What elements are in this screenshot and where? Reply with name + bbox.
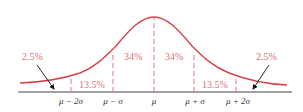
- label-left-inner: 34%: [124, 51, 142, 62]
- left-tail-arrow: [37, 65, 54, 89]
- axis-label-mu-plus-2sigma: μ + 2σ: [225, 96, 251, 106]
- label-right-tail: 2.5%: [256, 51, 277, 62]
- right-tail-arrow: [253, 65, 269, 89]
- label-left-tail: 2.5%: [22, 51, 43, 62]
- label-right-inner: 34%: [165, 51, 183, 62]
- normal-distribution-diagram: 2.5% 13.5% 34% 34% 13.5% 2.5% μ − 2σ μ −…: [0, 0, 303, 112]
- axis-label-mu-plus-sigma: μ + σ: [184, 96, 205, 106]
- axis-label-mu-minus-sigma: μ − σ: [102, 96, 123, 106]
- label-right-outer: 13.5%: [202, 79, 228, 90]
- label-left-outer: 13.5%: [79, 79, 105, 90]
- axis-label-mu-minus-2sigma: μ − 2σ: [58, 96, 84, 106]
- axis-label-mu: μ: [151, 96, 157, 106]
